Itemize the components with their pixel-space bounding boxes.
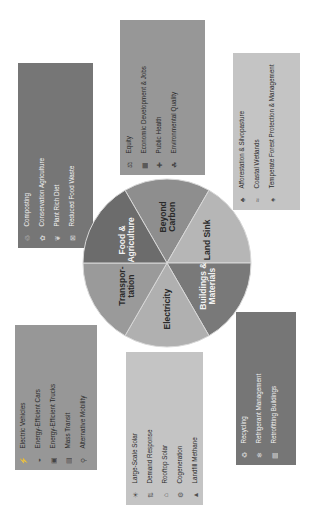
pie-label-land-sink: Land Sink [202,219,212,260]
pie-label-beyond-carbon: BeyondCarbon [158,201,177,232]
pie-label-electricity: Electricity [162,289,172,330]
sector-wheel: BeyondCarbonLand SinkBuildings &Material… [0,0,311,514]
pie-label-buildings-materials: Buildings &Materials [198,262,217,309]
